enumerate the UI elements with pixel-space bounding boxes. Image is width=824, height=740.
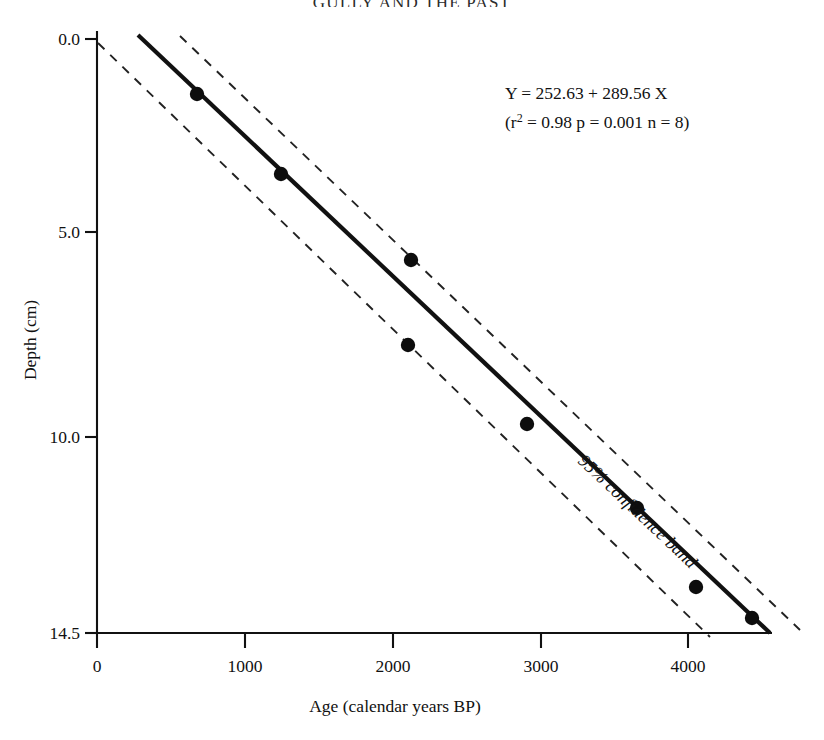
confidence-band-label: 95% confidence band — [574, 450, 702, 572]
data-point — [401, 338, 415, 352]
x-tick-label-0: 0 — [93, 656, 102, 676]
y-tick-label-2: 10.0 — [49, 427, 80, 447]
x-tick-label-2: 2000 — [376, 656, 411, 676]
equation-line-2: (r2 = 0.98 p = 0.001 n = 8) — [505, 111, 690, 132]
data-point — [745, 611, 759, 625]
y-tick-label-3: 14.5 — [49, 623, 80, 643]
equation-r-prefix: (r — [505, 112, 517, 132]
confidence-band-upper — [180, 36, 800, 630]
data-point — [404, 253, 418, 267]
data-point — [274, 167, 288, 181]
y-tick-label-1: 5.0 — [58, 222, 80, 242]
data-point — [689, 580, 703, 594]
equation-r-rest: = 0.98 p = 0.001 n = 8) — [523, 112, 690, 132]
x-axis-title: Age (calendar years BP) — [309, 696, 481, 716]
data-point — [190, 87, 204, 101]
data-point — [520, 417, 534, 431]
y-axis-title: Depth (cm) — [20, 300, 40, 380]
x-tick-label-1: 1000 — [228, 656, 263, 676]
chart-svg: 0.0 5.0 10.0 14.5 0 1000 2000 3000 4000 … — [0, 0, 824, 740]
y-tick-label-0: 0.0 — [58, 29, 80, 49]
figure-container: GULLY AND THE PAST 0.0 5.0 10.0 14.5 0 1… — [0, 0, 824, 740]
equation-line-1: Y = 252.63 + 289.56 X — [505, 83, 668, 103]
x-tick-label-3: 3000 — [524, 656, 559, 676]
x-tick-label-4: 4000 — [671, 656, 706, 676]
